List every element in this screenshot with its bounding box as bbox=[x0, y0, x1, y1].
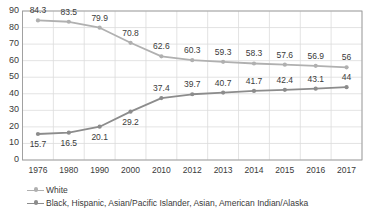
data-point bbox=[314, 87, 318, 91]
x-axis-tick-label: 1976 bbox=[22, 166, 54, 175]
y-axis-tick-label: 0 bbox=[0, 155, 19, 164]
data-point bbox=[314, 64, 318, 68]
y-axis-tick-label: 70 bbox=[0, 39, 19, 48]
legend-label-minority: Black, Hispanic, Asian/Pacific Islander,… bbox=[46, 198, 308, 208]
y-axis-tick-label: 80 bbox=[0, 23, 19, 32]
data-point-label: 29.2 bbox=[115, 118, 147, 127]
data-point-label: 37.4 bbox=[145, 84, 177, 93]
data-point bbox=[67, 20, 71, 24]
data-point bbox=[67, 131, 71, 135]
x-axis-tick-label: 2016 bbox=[300, 166, 332, 175]
x-axis-tick-label: 2012 bbox=[176, 166, 208, 175]
x-axis-tick-label: 2000 bbox=[115, 166, 147, 175]
data-point bbox=[190, 58, 194, 62]
data-point-label: 58.3 bbox=[238, 49, 270, 58]
data-point bbox=[283, 88, 287, 92]
data-point bbox=[221, 91, 225, 95]
y-axis-tick-label: 50 bbox=[0, 72, 19, 81]
legend-marker-white bbox=[27, 186, 44, 194]
data-point-label: 60.3 bbox=[176, 46, 208, 55]
data-point-label: 83.5 bbox=[53, 8, 85, 17]
legend-item-minority[interactable]: Black, Hispanic, Asian/Pacific Islander,… bbox=[27, 198, 308, 208]
y-axis-tick-label: 20 bbox=[0, 122, 19, 131]
x-axis-tick-label: 1990 bbox=[84, 166, 116, 175]
data-point bbox=[159, 96, 163, 100]
legend-item-white[interactable]: White bbox=[27, 185, 68, 195]
data-point bbox=[190, 92, 194, 96]
data-point-label: 20.1 bbox=[84, 133, 116, 142]
x-axis-tick-label: 2010 bbox=[145, 166, 177, 175]
data-point-label: 56.9 bbox=[300, 52, 332, 61]
data-point bbox=[128, 110, 132, 114]
data-point bbox=[344, 65, 348, 69]
data-point bbox=[36, 18, 40, 22]
x-axis-tick-label: 2017 bbox=[331, 166, 363, 175]
y-axis-tick-label: 90 bbox=[0, 6, 19, 15]
data-point-label: 42.4 bbox=[269, 76, 301, 85]
data-point bbox=[252, 61, 256, 65]
data-point-label: 84.3 bbox=[22, 6, 54, 15]
line-chart: 0102030405060708090 19761980199020002010… bbox=[0, 0, 365, 217]
x-axis-tick-label: 1980 bbox=[53, 166, 85, 175]
y-axis-tick-label: 60 bbox=[0, 56, 19, 65]
data-point-label: 70.8 bbox=[115, 29, 147, 38]
data-point-label: 62.6 bbox=[145, 42, 177, 51]
data-point bbox=[128, 41, 132, 45]
x-axis-tick-label: 2015 bbox=[269, 166, 301, 175]
y-axis-tick-label: 40 bbox=[0, 89, 19, 98]
data-point-label: 59.3 bbox=[207, 48, 239, 57]
data-point bbox=[98, 125, 102, 129]
legend-marker-minority bbox=[27, 199, 44, 207]
data-point-label: 56 bbox=[331, 53, 363, 62]
data-point bbox=[283, 63, 287, 67]
data-point-label: 79.9 bbox=[84, 14, 116, 23]
data-point-label: 15.7 bbox=[22, 140, 54, 149]
x-axis-tick-label: 2013 bbox=[207, 166, 239, 175]
y-axis-tick-label: 10 bbox=[0, 138, 19, 147]
legend-label-white: White bbox=[46, 185, 68, 195]
data-point bbox=[98, 26, 102, 30]
data-point-label: 43.1 bbox=[300, 75, 332, 84]
data-point bbox=[159, 54, 163, 58]
data-point-label: 40.7 bbox=[207, 79, 239, 88]
data-point bbox=[221, 60, 225, 64]
data-point-label: 39.7 bbox=[176, 80, 208, 89]
data-point-label: 16.5 bbox=[53, 139, 85, 148]
data-point-label: 57.6 bbox=[269, 51, 301, 60]
data-point bbox=[36, 132, 40, 136]
x-axis-tick-label: 2014 bbox=[238, 166, 270, 175]
y-axis-tick-label: 30 bbox=[0, 105, 19, 114]
data-point bbox=[344, 85, 348, 89]
data-point bbox=[252, 89, 256, 93]
data-point-label: 44 bbox=[331, 73, 363, 82]
data-point-label: 41.7 bbox=[238, 77, 270, 86]
